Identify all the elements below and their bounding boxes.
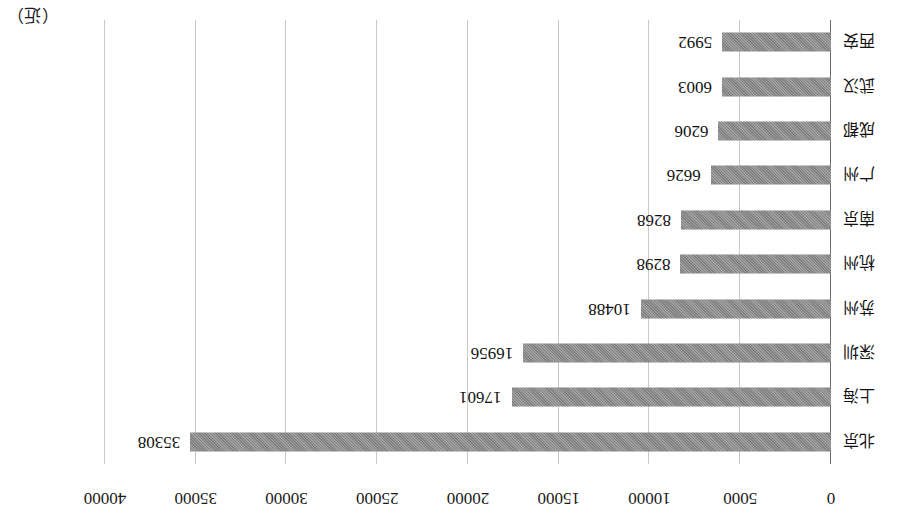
category-label: 北京 bbox=[843, 430, 875, 454]
x-tick-label: 25000 bbox=[356, 488, 399, 508]
category-label: 杭州 bbox=[843, 252, 875, 276]
bar-row: 广州6626 bbox=[105, 153, 831, 197]
plot-area: 北京35308上海17601深圳16956苏州10488杭州8298南京8268… bbox=[105, 20, 831, 464]
bar-row: 南京8268 bbox=[105, 198, 831, 242]
category-label: 西安 bbox=[843, 30, 875, 54]
category-label: 武汉 bbox=[843, 75, 875, 99]
category-label: 成都 bbox=[843, 119, 875, 143]
bar-value-label: 17601 bbox=[459, 387, 502, 407]
bar-value-label: 8298 bbox=[636, 254, 670, 274]
x-tick-label: 10000 bbox=[628, 488, 671, 508]
x-tick-label: 15000 bbox=[538, 488, 581, 508]
bar-row: 苏州10488 bbox=[105, 286, 831, 330]
bar bbox=[523, 344, 831, 363]
bar bbox=[680, 255, 831, 274]
bar-value-label: 6003 bbox=[678, 77, 712, 97]
category-label: 南京 bbox=[843, 208, 875, 232]
bar-value-label: 35308 bbox=[138, 432, 181, 452]
bar bbox=[641, 299, 831, 318]
category-label: 深圳 bbox=[843, 341, 875, 365]
x-tick-label: 5000 bbox=[723, 488, 757, 508]
unit-label: （近） bbox=[6, 4, 59, 29]
x-tick-label: 20000 bbox=[447, 488, 490, 508]
category-label: 广州 bbox=[843, 163, 875, 187]
bar-row: 深圳16956 bbox=[105, 331, 831, 375]
x-tick-label: 30000 bbox=[265, 488, 308, 508]
bar bbox=[711, 166, 831, 185]
bar bbox=[190, 432, 831, 451]
bar-row: 武汉6003 bbox=[105, 64, 831, 108]
bar-value-label: 10488 bbox=[588, 299, 631, 319]
x-tick-label: 40000 bbox=[84, 488, 127, 508]
bar-value-label: 6626 bbox=[667, 165, 701, 185]
bar-value-label: 5992 bbox=[678, 32, 712, 52]
x-tick-label: 0 bbox=[827, 488, 836, 508]
bar-row: 杭州8298 bbox=[105, 242, 831, 286]
bar bbox=[722, 77, 831, 96]
category-label: 苏州 bbox=[843, 297, 875, 321]
bar-row: 西安5992 bbox=[105, 20, 831, 64]
bar-row: 北京35308 bbox=[105, 420, 831, 464]
bar bbox=[722, 33, 831, 52]
bar bbox=[718, 122, 831, 141]
bar-chart-figure: （近） 050001000015000200002500030000350004… bbox=[0, 0, 919, 518]
x-tick-label: 35000 bbox=[175, 488, 218, 508]
bar-value-label: 16956 bbox=[471, 343, 514, 363]
x-axis-tick-labels: 0500010000150002000025000300003500040000 bbox=[105, 470, 831, 508]
bar-value-label: 8268 bbox=[637, 210, 671, 230]
bar-row: 成都6206 bbox=[105, 109, 831, 153]
bar bbox=[681, 210, 831, 229]
bar bbox=[512, 388, 831, 407]
bar-value-label: 6206 bbox=[674, 121, 708, 141]
category-label: 上海 bbox=[843, 385, 875, 409]
bar-row: 上海17601 bbox=[105, 375, 831, 419]
